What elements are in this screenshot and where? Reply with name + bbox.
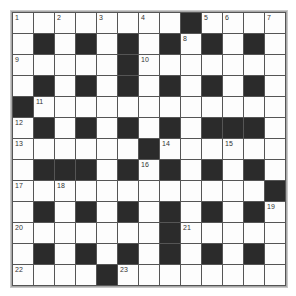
answer-cell[interactable] — [244, 223, 264, 243]
answer-cell[interactable]: 10 — [139, 55, 159, 75]
answer-cell[interactable] — [34, 13, 54, 33]
answer-cell[interactable] — [55, 55, 75, 75]
answer-cell[interactable] — [76, 55, 96, 75]
answer-cell[interactable] — [97, 76, 117, 96]
answer-cell[interactable] — [181, 76, 201, 96]
answer-cell[interactable] — [34, 265, 54, 285]
answer-cell[interactable] — [13, 76, 33, 96]
answer-cell[interactable] — [223, 97, 243, 117]
answer-cell[interactable] — [160, 265, 180, 285]
answer-cell[interactable] — [139, 181, 159, 201]
answer-cell[interactable]: 12 — [13, 118, 33, 138]
answer-cell[interactable] — [118, 223, 138, 243]
answer-cell[interactable] — [97, 202, 117, 222]
answer-cell[interactable]: 15 — [223, 139, 243, 159]
answer-cell[interactable] — [118, 181, 138, 201]
answer-cell[interactable] — [76, 265, 96, 285]
answer-cell[interactable] — [13, 34, 33, 54]
answer-cell[interactable] — [13, 244, 33, 264]
answer-cell[interactable] — [202, 181, 222, 201]
answer-cell[interactable] — [223, 160, 243, 180]
answer-cell[interactable] — [139, 118, 159, 138]
answer-cell[interactable] — [97, 181, 117, 201]
answer-cell[interactable] — [139, 265, 159, 285]
answer-cell[interactable] — [13, 202, 33, 222]
answer-cell[interactable]: 8 — [181, 34, 201, 54]
answer-cell[interactable] — [55, 223, 75, 243]
answer-cell[interactable] — [55, 202, 75, 222]
answer-cell[interactable]: 1 — [13, 13, 33, 33]
answer-cell[interactable]: 3 — [97, 13, 117, 33]
answer-cell[interactable] — [76, 181, 96, 201]
answer-cell[interactable] — [76, 223, 96, 243]
answer-cell[interactable] — [265, 118, 285, 138]
answer-cell[interactable] — [223, 55, 243, 75]
answer-cell[interactable] — [160, 13, 180, 33]
answer-cell[interactable] — [223, 223, 243, 243]
answer-cell[interactable] — [55, 139, 75, 159]
answer-cell[interactable] — [55, 34, 75, 54]
answer-cell[interactable] — [139, 202, 159, 222]
answer-cell[interactable] — [97, 34, 117, 54]
answer-cell[interactable] — [244, 13, 264, 33]
answer-cell[interactable] — [265, 223, 285, 243]
answer-cell[interactable] — [55, 244, 75, 264]
answer-cell[interactable] — [34, 223, 54, 243]
answer-cell[interactable] — [244, 97, 264, 117]
answer-cell[interactable] — [181, 265, 201, 285]
answer-cell[interactable] — [265, 34, 285, 54]
answer-cell[interactable] — [223, 76, 243, 96]
answer-cell[interactable]: 13 — [13, 139, 33, 159]
answer-cell[interactable] — [55, 76, 75, 96]
answer-cell[interactable] — [265, 244, 285, 264]
answer-cell[interactable] — [139, 34, 159, 54]
answer-cell[interactable]: 18 — [55, 181, 75, 201]
answer-cell[interactable] — [97, 160, 117, 180]
answer-cell[interactable] — [223, 202, 243, 222]
answer-cell[interactable] — [160, 97, 180, 117]
answer-cell[interactable]: 20 — [13, 223, 33, 243]
answer-cell[interactable]: 2 — [55, 13, 75, 33]
answer-cell[interactable] — [202, 97, 222, 117]
answer-cell[interactable] — [223, 244, 243, 264]
answer-cell[interactable]: 7 — [265, 13, 285, 33]
answer-cell[interactable] — [139, 244, 159, 264]
answer-cell[interactable]: 4 — [139, 13, 159, 33]
answer-cell[interactable]: 17 — [13, 181, 33, 201]
answer-cell[interactable] — [118, 97, 138, 117]
answer-cell[interactable] — [181, 97, 201, 117]
answer-cell[interactable] — [181, 202, 201, 222]
answer-cell[interactable] — [34, 55, 54, 75]
answer-cell[interactable]: 19 — [265, 202, 285, 222]
answer-cell[interactable] — [97, 244, 117, 264]
answer-cell[interactable] — [244, 139, 264, 159]
answer-cell[interactable] — [223, 181, 243, 201]
answer-cell[interactable] — [34, 139, 54, 159]
answer-cell[interactable] — [244, 55, 264, 75]
answer-cell[interactable] — [139, 76, 159, 96]
answer-cell[interactable] — [244, 181, 264, 201]
answer-cell[interactable] — [34, 181, 54, 201]
answer-cell[interactable] — [181, 139, 201, 159]
answer-cell[interactable]: 21 — [181, 223, 201, 243]
answer-cell[interactable] — [118, 13, 138, 33]
answer-cell[interactable] — [139, 97, 159, 117]
answer-cell[interactable] — [265, 55, 285, 75]
answer-cell[interactable] — [13, 160, 33, 180]
answer-cell[interactable] — [244, 265, 264, 285]
answer-cell[interactable] — [265, 265, 285, 285]
answer-cell[interactable] — [55, 118, 75, 138]
answer-cell[interactable]: 6 — [223, 13, 243, 33]
answer-cell[interactable] — [223, 265, 243, 285]
answer-cell[interactable] — [265, 139, 285, 159]
answer-cell[interactable] — [202, 265, 222, 285]
answer-cell[interactable] — [97, 97, 117, 117]
answer-cell[interactable] — [55, 265, 75, 285]
answer-cell[interactable]: 14 — [160, 139, 180, 159]
answer-cell[interactable] — [223, 34, 243, 54]
answer-cell[interactable]: 5 — [202, 13, 222, 33]
answer-cell[interactable] — [118, 139, 138, 159]
answer-cell[interactable] — [181, 244, 201, 264]
answer-cell[interactable]: 11 — [34, 97, 54, 117]
answer-cell[interactable]: 16 — [139, 160, 159, 180]
